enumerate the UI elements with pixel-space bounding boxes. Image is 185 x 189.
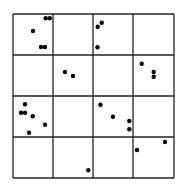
dot	[152, 75, 156, 79]
dot	[100, 21, 104, 25]
dot	[43, 45, 47, 49]
dot	[43, 123, 47, 127]
dot	[27, 131, 31, 135]
dot	[63, 70, 67, 74]
dot	[31, 29, 35, 33]
dot	[23, 102, 27, 106]
dot	[39, 45, 43, 49]
dot	[19, 111, 23, 115]
dot	[163, 140, 167, 144]
dot	[127, 119, 131, 123]
dot	[96, 25, 100, 29]
dot	[152, 70, 156, 74]
dot	[127, 127, 131, 131]
dot	[31, 114, 35, 118]
dot	[111, 115, 115, 119]
grid-lines	[13, 14, 174, 178]
dot-grid-diagram	[0, 0, 185, 189]
dot	[135, 148, 139, 152]
dot	[98, 103, 102, 107]
dot	[86, 168, 90, 172]
dot	[44, 16, 48, 20]
dot	[95, 45, 99, 49]
dot	[71, 74, 75, 78]
dot	[23, 111, 27, 115]
dot	[140, 62, 144, 66]
dot	[48, 16, 52, 20]
